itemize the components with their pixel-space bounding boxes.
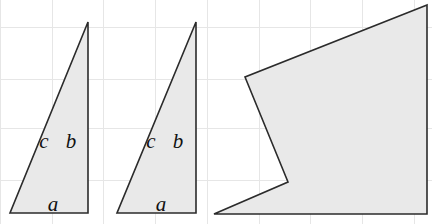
middle-triangle-label-a: a — [156, 192, 167, 216]
left-triangle-label-a: a — [48, 192, 59, 216]
middle-triangle-label-c: c — [146, 129, 156, 153]
middle-triangle-label-b: b — [173, 129, 184, 153]
left-triangle-label-b: b — [66, 129, 77, 153]
figure-canvas: cbacba — [0, 0, 432, 224]
geometry-figure-svg: cbacba — [0, 0, 432, 224]
left-triangle-label-c: c — [39, 129, 49, 153]
